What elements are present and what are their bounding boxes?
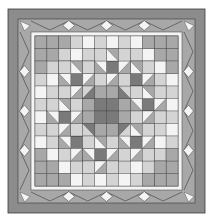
patch xyxy=(71,36,83,49)
patch xyxy=(142,149,154,162)
patch xyxy=(71,161,83,174)
patch xyxy=(35,124,47,137)
patch xyxy=(83,49,95,62)
patch xyxy=(47,161,59,174)
patch xyxy=(59,86,71,99)
patch xyxy=(47,36,59,49)
patch xyxy=(130,86,142,99)
patch xyxy=(47,174,59,187)
patch xyxy=(47,149,59,162)
patch xyxy=(35,136,47,149)
patch xyxy=(47,74,59,87)
patch xyxy=(142,124,154,137)
patch xyxy=(154,149,166,162)
patch xyxy=(47,136,59,149)
patch xyxy=(118,111,130,124)
patch xyxy=(83,99,95,112)
patch xyxy=(35,174,47,187)
patch xyxy=(35,74,47,87)
patch xyxy=(154,124,166,137)
patch xyxy=(95,124,107,137)
patch xyxy=(83,161,95,174)
patch xyxy=(107,111,119,124)
patch xyxy=(107,136,119,149)
patch xyxy=(166,74,178,87)
patch xyxy=(35,86,47,99)
patch xyxy=(154,136,166,149)
patch xyxy=(35,61,47,74)
patch xyxy=(107,61,119,74)
patch xyxy=(154,174,166,187)
patch xyxy=(59,174,71,187)
patch xyxy=(59,49,71,62)
patch xyxy=(71,124,83,137)
patch xyxy=(71,136,83,149)
patch xyxy=(71,174,83,187)
patch xyxy=(166,111,178,124)
patch xyxy=(71,49,83,62)
patch xyxy=(118,149,130,162)
patch xyxy=(35,149,47,162)
patch xyxy=(83,174,95,187)
patch xyxy=(107,124,119,137)
patch xyxy=(166,36,178,49)
patch xyxy=(154,49,166,62)
patch xyxy=(35,49,47,62)
patch xyxy=(142,174,154,187)
patch xyxy=(107,36,119,49)
patch xyxy=(154,111,166,124)
patch xyxy=(130,74,142,87)
patch xyxy=(83,111,95,124)
patch xyxy=(35,161,47,174)
patch xyxy=(71,74,83,87)
patch xyxy=(154,161,166,174)
patch xyxy=(154,74,166,87)
patch xyxy=(95,74,107,87)
patch xyxy=(107,174,119,187)
patch xyxy=(59,161,71,174)
patch xyxy=(118,174,130,187)
patch xyxy=(107,99,119,112)
patch xyxy=(118,49,130,62)
patch xyxy=(35,111,47,124)
patch xyxy=(118,161,130,174)
patch xyxy=(95,174,107,187)
patch xyxy=(95,49,107,62)
patch xyxy=(118,36,130,49)
patch xyxy=(47,86,59,99)
patch xyxy=(83,136,95,149)
patch xyxy=(142,99,154,112)
patch xyxy=(130,136,142,149)
quilt-image xyxy=(0,0,212,219)
patch xyxy=(130,49,142,62)
patch xyxy=(35,99,47,112)
patch xyxy=(118,99,130,112)
patch xyxy=(59,36,71,49)
patch xyxy=(154,86,166,99)
patch xyxy=(47,99,59,112)
patch xyxy=(59,149,71,162)
patch xyxy=(166,99,178,112)
patch xyxy=(166,124,178,137)
patch xyxy=(107,86,119,99)
patch xyxy=(142,49,154,62)
patch xyxy=(47,49,59,62)
patch xyxy=(95,99,107,112)
patch xyxy=(166,161,178,174)
patch xyxy=(166,49,178,62)
patch xyxy=(142,61,154,74)
patch xyxy=(166,61,178,74)
patch xyxy=(166,149,178,162)
patch xyxy=(35,36,47,49)
patch xyxy=(166,86,178,99)
patch xyxy=(83,36,95,49)
patch xyxy=(154,61,166,74)
patch xyxy=(154,36,166,49)
patch xyxy=(130,36,142,49)
medallion xyxy=(35,36,178,186)
patch xyxy=(59,111,71,124)
patch xyxy=(83,61,95,74)
patch xyxy=(130,161,142,174)
patch xyxy=(95,149,107,162)
patch xyxy=(166,136,178,149)
